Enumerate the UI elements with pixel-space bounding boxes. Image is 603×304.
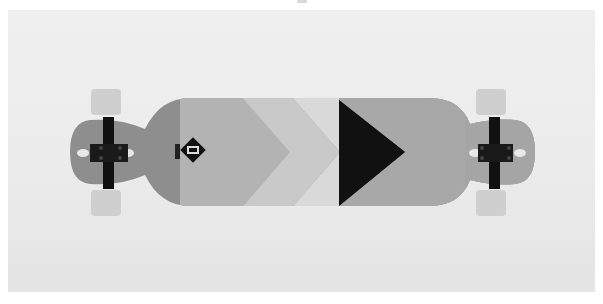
truck-left-baseplate — [90, 144, 128, 162]
longboard-illustration — [0, 0, 603, 304]
mount-hole-left-outer — [77, 149, 89, 157]
wheel-right-top — [476, 89, 506, 115]
wheel-left-top — [91, 89, 121, 115]
wheel-right-bottom — [476, 190, 506, 216]
deck-label-strip — [175, 144, 180, 159]
wheel-left-bottom — [91, 190, 121, 216]
mount-hole-right-outer — [514, 149, 526, 157]
